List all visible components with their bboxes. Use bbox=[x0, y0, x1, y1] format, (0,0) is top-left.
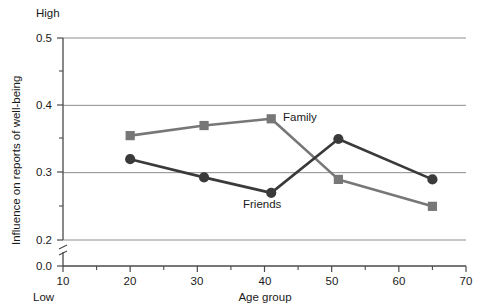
y-tick-label-0.0: 0.0 bbox=[36, 260, 52, 272]
data-point-family-31 bbox=[199, 121, 208, 130]
x-tick-label-30: 30 bbox=[191, 275, 204, 287]
y-axis-title: Influence on reports of well-being bbox=[10, 76, 22, 245]
data-point-friends-51 bbox=[333, 134, 343, 144]
series-label-friends: Friends bbox=[243, 198, 282, 210]
x-tick-label-10: 10 bbox=[57, 275, 70, 287]
y-tick-label-0.4: 0.4 bbox=[36, 99, 53, 111]
x-tick-label-70: 70 bbox=[460, 275, 473, 287]
x-axis-title: Age group bbox=[238, 291, 291, 303]
y-tick-label-0.5: 0.5 bbox=[36, 32, 52, 44]
y-axis-high-label: High bbox=[36, 7, 60, 19]
chart-container: 0.5 0.4 0.3 0.2 0.0 10 20 30 40 50 60 70… bbox=[0, 0, 489, 305]
x-tick-label-40: 40 bbox=[259, 275, 272, 287]
data-point-friends-41 bbox=[266, 188, 276, 198]
x-tick-label-50: 50 bbox=[326, 275, 339, 287]
data-point-family-65 bbox=[428, 202, 437, 211]
series-label-family: Family bbox=[283, 111, 317, 123]
line-chart: 0.5 0.4 0.3 0.2 0.0 10 20 30 40 50 60 70… bbox=[0, 0, 489, 305]
y-tick-label-0.2: 0.2 bbox=[36, 234, 52, 246]
data-point-family-20 bbox=[126, 131, 135, 140]
y-axis-low-label: Low bbox=[33, 291, 55, 303]
data-point-friends-31 bbox=[199, 172, 209, 182]
chart-background bbox=[0, 0, 489, 305]
data-point-family-51 bbox=[334, 175, 343, 184]
data-point-family-41 bbox=[267, 114, 276, 123]
data-point-friends-20 bbox=[125, 154, 135, 164]
y-tick-label-0.3: 0.3 bbox=[36, 166, 52, 178]
x-tick-label-60: 60 bbox=[393, 275, 406, 287]
data-point-friends-65 bbox=[427, 174, 437, 184]
x-tick-label-20: 20 bbox=[124, 275, 137, 287]
